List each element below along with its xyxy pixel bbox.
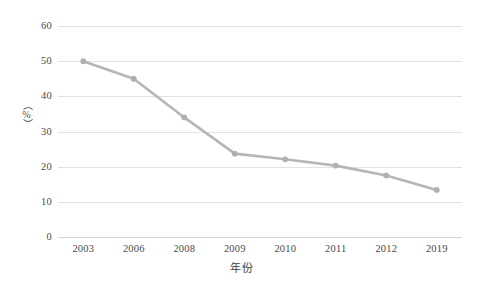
x-tick-label-2008: 2008: [173, 243, 195, 254]
y-tick-label-60: 60: [18, 21, 52, 32]
y-tick-label-40: 40: [18, 91, 52, 102]
plot-area: [58, 26, 462, 237]
y-tick-label-50: 50: [18, 56, 52, 67]
y-axis-tick-labels: 0102030405060: [8, 0, 52, 291]
data-point-2011: [333, 163, 339, 169]
gridline-0: [58, 237, 462, 238]
data-point-2006: [131, 76, 137, 82]
x-axis-title: 年份: [0, 262, 484, 275]
series-line: [83, 61, 437, 190]
data-point-2009: [232, 151, 238, 157]
y-tick-label-10: 10: [18, 197, 52, 208]
line-chart: （%） 0102030405060 2003200620082009201020…: [0, 0, 484, 291]
series-line-group: [58, 26, 462, 237]
data-point-2012: [383, 173, 389, 179]
x-axis-tick-labels: 20032006200820092010201120122019: [58, 243, 462, 257]
x-tick-label-2019: 2019: [426, 243, 448, 254]
x-tick-label-2012: 2012: [375, 243, 397, 254]
data-point-2008: [181, 115, 187, 121]
x-tick-label-2003: 2003: [72, 243, 94, 254]
data-point-2003: [80, 58, 86, 64]
x-tick-label-2006: 2006: [123, 243, 145, 254]
y-tick-label-20: 20: [18, 162, 52, 173]
x-tick-label-2009: 2009: [224, 243, 246, 254]
data-point-2010: [282, 156, 288, 162]
series-markers: [80, 58, 439, 193]
x-tick-label-2011: 2011: [325, 243, 346, 254]
y-tick-label-0: 0: [18, 232, 52, 243]
y-tick-label-30: 30: [18, 127, 52, 138]
x-tick-label-2010: 2010: [274, 243, 296, 254]
data-point-2019: [434, 187, 440, 193]
